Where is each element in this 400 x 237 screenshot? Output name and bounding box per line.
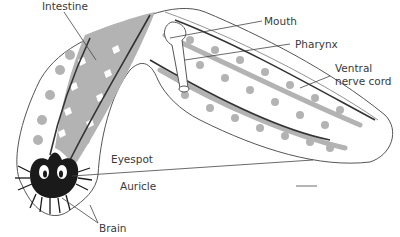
label-intestine: Intestine <box>42 0 88 12</box>
label-eyespot: Eyespot <box>111 153 153 165</box>
label-auricle: Auricle <box>120 180 156 192</box>
label-brain: Brain <box>99 222 127 234</box>
planarian-diagram <box>0 0 400 237</box>
mouth-opening <box>179 86 189 92</box>
label-ventral-nerve-cord-line2: nerve cord <box>335 75 391 87</box>
label-pharynx: Pharynx <box>295 38 338 50</box>
label-mouth: Mouth <box>264 15 297 27</box>
label-ventral-nerve-cord-line1: Ventral <box>335 62 372 74</box>
